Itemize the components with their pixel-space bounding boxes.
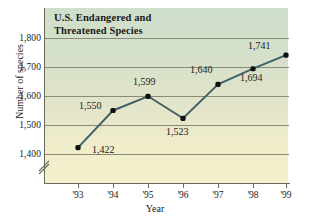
- data-point-94: [110, 108, 115, 113]
- data-point-93: [75, 145, 80, 150]
- chart-figure: 1,800 1,700 1,600 1,500 1,400 Number of …: [0, 0, 310, 220]
- data-label-1550: 1,550: [79, 100, 102, 111]
- data-label-1741: 1,741: [248, 40, 271, 51]
- data-label-1422: 1,422: [92, 144, 115, 155]
- data-label-1599: 1,599: [133, 76, 156, 87]
- data-point-96: [180, 116, 185, 121]
- data-series-line: [0, 0, 310, 220]
- data-point-99: [283, 53, 288, 58]
- data-point-98: [250, 66, 255, 71]
- data-point-97: [215, 82, 220, 87]
- data-label-1694: 1,694: [240, 72, 263, 83]
- data-point-95: [145, 94, 150, 99]
- data-label-1640: 1,640: [190, 64, 213, 75]
- data-label-1523: 1,523: [166, 126, 189, 137]
